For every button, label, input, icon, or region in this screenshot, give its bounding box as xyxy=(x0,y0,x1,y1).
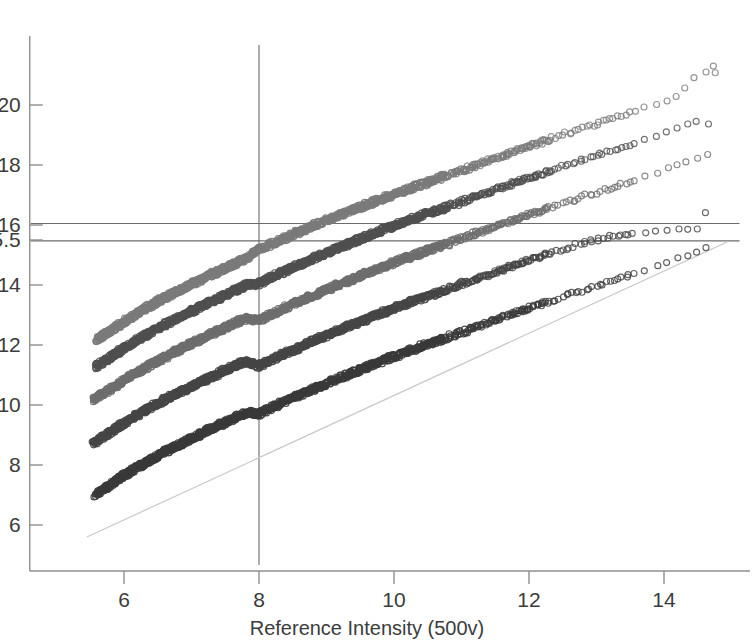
scatter-plot: 6810121415.516182068101214Reference Inte… xyxy=(0,0,753,643)
y-tick-label-18: 18 xyxy=(0,153,21,176)
plot-background xyxy=(0,0,753,643)
y-tick-label-10: 10 xyxy=(0,393,21,416)
x-tick-label-10: 10 xyxy=(382,588,405,611)
chart-container: 6810121415.516182068101214Reference Inte… xyxy=(0,0,753,643)
y-tick-label-20: 20 xyxy=(0,93,21,116)
y-tick-label-8: 8 xyxy=(9,453,21,476)
x-tick-label-6: 6 xyxy=(118,588,130,611)
y-tick-label-14: 14 xyxy=(0,273,21,296)
x-axis-title: Reference Intensity (500v) xyxy=(250,617,485,639)
y-tick-label-6: 6 xyxy=(9,513,21,536)
y-tick-label-16: 16 xyxy=(0,213,21,236)
x-tick-label-12: 12 xyxy=(517,588,540,611)
x-tick-label-8: 8 xyxy=(253,588,265,611)
x-tick-label-14: 14 xyxy=(652,588,676,611)
y-tick-label-12: 12 xyxy=(0,333,21,356)
